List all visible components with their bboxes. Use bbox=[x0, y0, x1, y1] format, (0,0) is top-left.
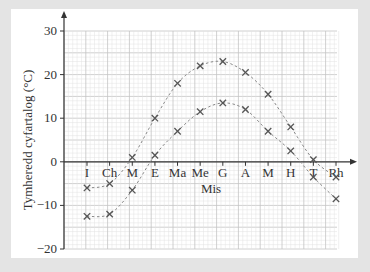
x-tick-label: E bbox=[151, 165, 159, 180]
x-tick-label: Me bbox=[192, 165, 210, 180]
y-tick-label: 20 bbox=[44, 67, 57, 82]
y-axis-title: Tymheredd cyfartalog (°C) bbox=[20, 70, 35, 211]
x-tick-label: Ch bbox=[102, 165, 118, 180]
x-axis-title: Mis bbox=[201, 181, 221, 196]
y-tick-label: 10 bbox=[44, 110, 57, 125]
x-tick-labels: IChMEMaMeGAMHTRh bbox=[85, 162, 344, 180]
y-tick-label: 0 bbox=[51, 154, 58, 169]
x-tick-label: G bbox=[218, 165, 227, 180]
x-tick-label: M bbox=[126, 165, 138, 180]
x-tick-label: Ma bbox=[169, 165, 187, 180]
x-tick-label: A bbox=[241, 165, 251, 180]
x-tick-label: H bbox=[286, 165, 295, 180]
series-line-upper bbox=[87, 61, 336, 188]
y-tick-labels: 3020100−10−20 bbox=[37, 23, 64, 256]
y-tick-label: −20 bbox=[37, 241, 57, 256]
x-tick-label: M bbox=[262, 165, 274, 180]
y-tick-label: −10 bbox=[37, 197, 57, 212]
grid bbox=[64, 31, 339, 249]
x-tick-label: I bbox=[85, 165, 89, 180]
line-chart: 3020100−10−20 IChMEMaMeGAMHTRh Mis Tymhe… bbox=[0, 0, 370, 272]
series-line-lower bbox=[87, 103, 336, 217]
y-tick-label: 30 bbox=[44, 23, 57, 38]
